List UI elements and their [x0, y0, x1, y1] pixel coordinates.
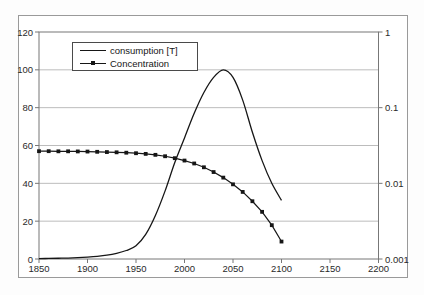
concentration-marker [251, 199, 255, 203]
concentration-marker [154, 153, 158, 157]
concentration-marker [37, 149, 41, 153]
x-axis-tick-label: 1850 [28, 263, 49, 274]
left-axis-tick-label: 60 [22, 140, 33, 151]
concentration-marker [270, 223, 274, 227]
concentration-marker [86, 150, 90, 154]
concentration-marker [192, 162, 196, 166]
right-axis-tick-label: 0.01 [385, 178, 404, 189]
concentration-marker [95, 150, 99, 154]
x-axis-tick-label: 2150 [319, 263, 340, 274]
consumption-line [39, 70, 282, 259]
x-axis-tick-label: 2000 [174, 263, 195, 274]
legend-label-concentration: Concentration [110, 58, 169, 69]
legend-entry-concentration: Concentration [73, 57, 197, 70]
concentration-marker [124, 151, 128, 155]
concentration-marker-sample-icon [80, 57, 106, 70]
concentration-marker [57, 149, 61, 153]
legend-entry-consumption: consumption [T] [73, 44, 197, 57]
concentration-marker [212, 170, 216, 174]
x-axis-tick-label: 1950 [125, 263, 146, 274]
concentration-marker [66, 149, 70, 153]
concentration-marker [76, 150, 80, 154]
left-axis-tick-label: 40 [22, 178, 33, 189]
concentration-marker [173, 156, 177, 160]
x-axis-tick-label: 2100 [271, 263, 292, 274]
x-axis-tick-label: 2050 [222, 263, 243, 274]
legend-label-consumption: consumption [T] [110, 45, 178, 56]
left-axis-tick-label: 100 [17, 64, 33, 75]
concentration-marker [260, 210, 264, 214]
concentration-marker [47, 149, 51, 153]
right-axis-tick-label: 1 [385, 27, 390, 38]
concentration-marker [241, 190, 245, 194]
left-axis-tick-label: 80 [22, 102, 33, 113]
concentration-marker [163, 154, 167, 158]
concentration-line [39, 151, 282, 241]
concentration-marker [115, 150, 119, 154]
concentration-marker [280, 240, 284, 244]
consumption-line-sample-icon [80, 44, 106, 57]
x-axis-tick-label: 2200 [368, 263, 389, 274]
concentration-marker [134, 151, 138, 155]
right-axis-tick-label: 0.1 [385, 102, 398, 113]
concentration-marker [105, 150, 109, 154]
concentration-marker [183, 159, 187, 163]
left-axis-tick-label: 20 [22, 216, 33, 227]
concentration-marker [231, 182, 235, 186]
chart-legend: consumption [T] Concentration [72, 42, 198, 71]
concentration-marker [221, 176, 225, 180]
left-axis-tick-label: 120 [17, 27, 33, 38]
concentration-marker [144, 152, 148, 156]
x-axis-tick-label: 1900 [77, 263, 98, 274]
concentration-marker [202, 165, 206, 169]
chart-plot-area: 02040608010012010.10.010.001185019001950… [0, 0, 424, 295]
